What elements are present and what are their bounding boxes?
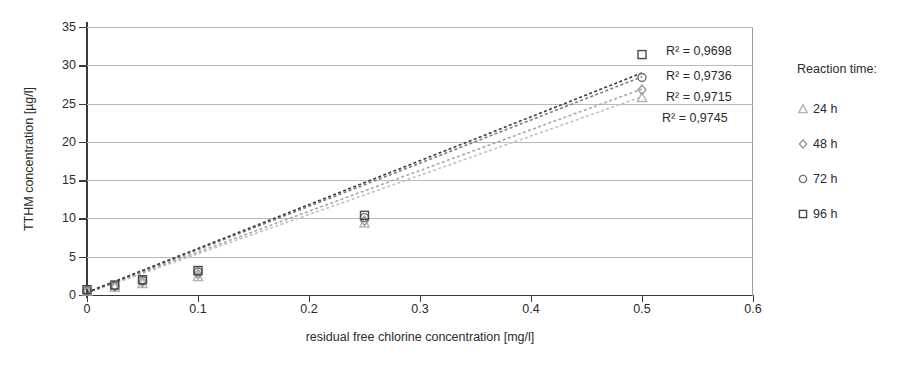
legend-title: Reaction time:: [797, 62, 917, 76]
square-icon: [797, 207, 813, 221]
trendline-72h: [87, 77, 642, 293]
plot-series-layer: [0, 0, 923, 367]
r2-label-72h: R² = 0,9736: [666, 69, 732, 83]
data-markers: [82, 51, 646, 296]
diamond-icon: [797, 137, 813, 151]
legend-item-24h[interactable]: 24 h: [797, 102, 917, 116]
marker-96h: [638, 51, 646, 59]
chart-root: 05101520253035 00.10.20.30.40.50.6 TTHM …: [0, 0, 923, 367]
trendline-24h: [87, 97, 642, 293]
triangle-icon: [797, 102, 813, 116]
legend-item-72h[interactable]: 72 h: [797, 172, 917, 186]
r2-label-24h: R² = 0,9745: [662, 111, 728, 125]
legend-item-label: 48 h: [813, 137, 837, 151]
legend-item-label: 96 h: [813, 207, 837, 221]
trendlines: [87, 73, 642, 293]
trendline-96h: [87, 73, 642, 292]
r2-label-96h: R² = 0,9698: [666, 44, 732, 58]
legend: Reaction time: 24 h48 h72 h96 h: [797, 62, 917, 242]
legend-item-label: 24 h: [813, 102, 837, 116]
legend-item-96h[interactable]: 96 h: [797, 207, 917, 221]
trendline-48h: [87, 89, 642, 293]
r2-label-48h: R² = 0,9715: [666, 90, 732, 104]
circle-icon: [797, 172, 813, 186]
legend-item-48h[interactable]: 48 h: [797, 137, 917, 151]
legend-item-label: 72 h: [813, 172, 837, 186]
